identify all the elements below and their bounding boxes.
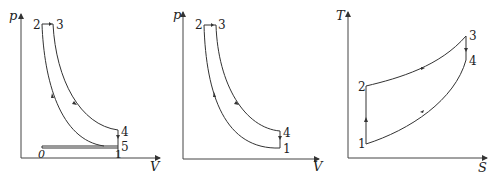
point-label-1: 1 <box>283 142 291 156</box>
v-axis-label: V <box>313 159 324 174</box>
v-axis-label: V <box>150 159 161 174</box>
ts-diagram: T S 2 1 3 4 <box>336 8 487 175</box>
arrow-icon <box>211 23 214 27</box>
arrow-icon <box>49 22 52 26</box>
s-axis-label: S <box>478 160 487 175</box>
point-label-0: 0 <box>38 148 45 161</box>
point-label-2: 2 <box>358 80 366 94</box>
point-label-4: 4 <box>469 54 477 68</box>
arrow-icon <box>278 136 282 140</box>
process-3-4 <box>216 25 280 131</box>
arrow-icon <box>364 117 368 122</box>
arrow-icon <box>116 135 120 139</box>
p-axis-label: p <box>173 7 182 22</box>
point-label-3: 3 <box>56 18 64 32</box>
pv-diagram-1: p V 2 3 4 5 1 0 <box>9 8 161 174</box>
arrow-icon <box>420 110 424 113</box>
process-1-2 <box>204 25 280 148</box>
process-1-2 <box>42 24 104 146</box>
point-label-5: 5 <box>121 140 129 154</box>
arrow-icon <box>464 48 468 52</box>
diagram-canvas: p V 2 3 4 5 1 0 p V <box>0 0 497 180</box>
process-4-1 <box>366 60 466 144</box>
point-label-4: 4 <box>283 126 291 140</box>
p-axis-label: p <box>9 8 18 23</box>
point-label-4: 4 <box>121 125 129 139</box>
pv-diagram-2: p V 2 3 4 1 <box>173 7 324 174</box>
point-label-3: 3 <box>218 18 226 32</box>
point-label-2: 2 <box>195 18 203 32</box>
process-2-3 <box>366 36 466 86</box>
point-label-1: 1 <box>358 137 366 151</box>
point-label-1: 1 <box>115 148 122 161</box>
t-axis-label: T <box>336 8 346 23</box>
point-label-3: 3 <box>469 29 477 43</box>
point-label-2: 2 <box>33 18 41 32</box>
